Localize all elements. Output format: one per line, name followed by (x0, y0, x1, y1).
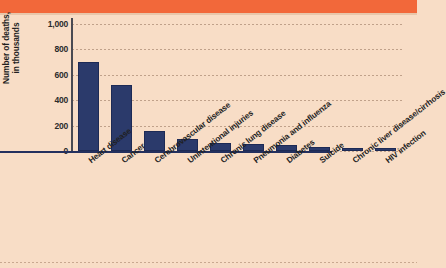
x-tick-label: Suicide (318, 141, 346, 165)
x-tick-label: Cancer (120, 141, 147, 165)
x-tick-label: Diabetes (285, 138, 316, 165)
bottom-dotted-rule (0, 262, 417, 263)
